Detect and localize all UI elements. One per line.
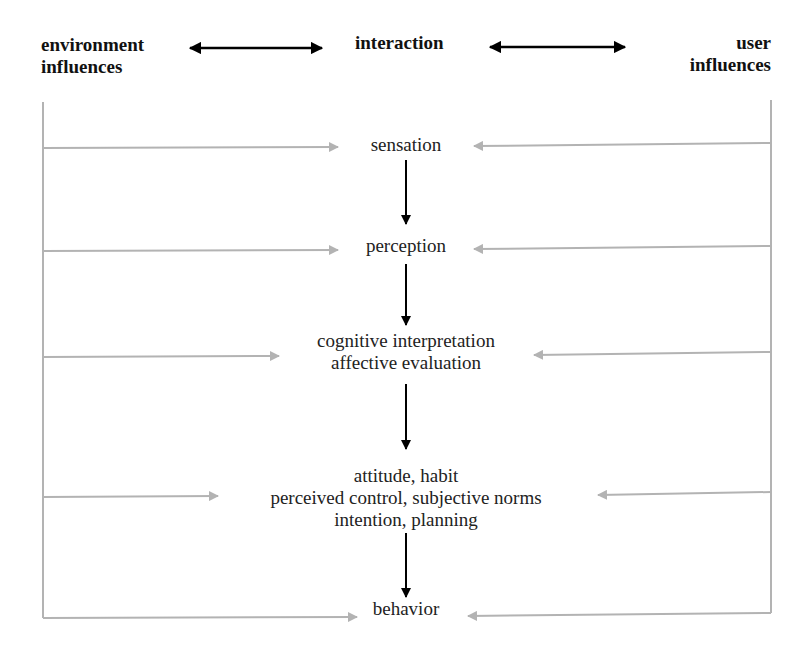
stage-sensation: sensation: [371, 134, 442, 156]
stage-text-line: affective evaluation: [317, 352, 495, 374]
interaction-heading: interaction: [355, 32, 444, 54]
stage-attitude: attitude, habitperceived control, subjec…: [270, 465, 541, 531]
stage-text-line: attitude, habit: [270, 465, 541, 487]
environment-influence-arrow: [43, 250, 338, 251]
stage-perception: perception: [366, 235, 446, 257]
heading-line: user: [690, 32, 771, 54]
stage-text-line: behavior: [373, 598, 439, 620]
user-influences-heading: user influences: [690, 32, 771, 76]
flow-diagram: [0, 0, 812, 649]
stage-behavior: behavior: [373, 598, 439, 620]
environment-influences-heading: environment influences: [41, 34, 144, 78]
stage-text-line: perceived control, subjective norms: [270, 487, 541, 509]
heading-line: influences: [41, 56, 144, 78]
stage-text-line: sensation: [371, 134, 442, 156]
user-influence-arrow: [474, 143, 771, 146]
stage-text-line: perception: [366, 235, 446, 257]
user-influence-arrow: [468, 613, 771, 616]
environment-influence-arrow: [43, 617, 357, 618]
stage-text-line: cognitive interpretation: [317, 330, 495, 352]
user-influence-arrow: [474, 246, 771, 249]
user-influence-arrow: [534, 352, 771, 355]
heading-line: influences: [690, 54, 771, 76]
heading-line: environment: [41, 34, 144, 56]
environment-influence-arrow: [43, 356, 279, 357]
stage-cognition: cognitive interpretationaffective evalua…: [317, 330, 495, 374]
user-influence-arrow: [598, 492, 771, 495]
environment-influence-arrow: [43, 147, 338, 148]
stage-text-line: intention, planning: [270, 509, 541, 531]
environment-influence-arrow: [43, 496, 218, 497]
